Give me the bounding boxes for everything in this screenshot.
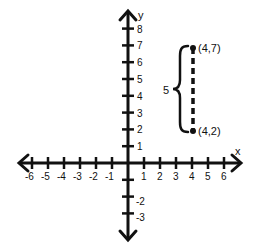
point-bottom-label: (4,2)	[198, 125, 221, 137]
x-tick-label: 6	[221, 171, 227, 182]
y-tick-label: 7	[137, 40, 143, 51]
coordinate-plane: -6-5-4-3-2-1123456 -3-212345678 x y (4,7…	[0, 0, 256, 251]
y-tick-label: 2	[137, 124, 143, 135]
y-tick-label: 6	[137, 57, 143, 68]
y-tick-label: 8	[137, 24, 143, 35]
y-tick-label: 5	[137, 74, 143, 85]
point-top-marker	[190, 45, 196, 51]
x-tick-label: 4	[189, 171, 195, 182]
x-tick-label: 1	[141, 171, 147, 182]
x-tick-label: -4	[57, 171, 66, 182]
x-tick-label: -1	[105, 171, 114, 182]
x-tick-label: -5	[41, 171, 50, 182]
point-top-label: (4,7)	[198, 42, 221, 54]
x-tick-label: -2	[89, 171, 98, 182]
y-tick-label: 3	[137, 108, 143, 119]
y-tick-label: 1	[137, 141, 143, 152]
x-tick-label: 5	[205, 171, 211, 182]
y-tick-label: -3	[136, 212, 145, 223]
y-tick-label: 4	[137, 91, 143, 102]
x-tick-label: 2	[157, 171, 163, 182]
y-axis-label: y	[138, 9, 144, 21]
distance-label: 5	[163, 84, 169, 96]
x-tick-label: -6	[25, 171, 34, 182]
x-tick-label: -3	[73, 171, 82, 182]
x-axis-label: x	[235, 145, 241, 157]
point-bottom-marker	[190, 128, 196, 134]
y-axis-tick-labels: -3-212345678	[136, 24, 145, 224]
y-tick-label: -2	[136, 196, 145, 207]
x-tick-label: 3	[173, 171, 179, 182]
curly-brace-icon	[173, 46, 188, 132]
